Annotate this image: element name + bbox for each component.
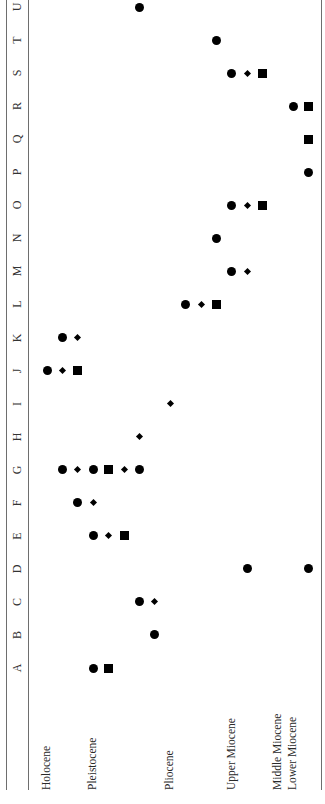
circle-marker-icon: [243, 564, 252, 573]
left-border-rule: [6, 0, 7, 790]
epoch-label-lower-miocene: Lower Miocene: [286, 717, 299, 790]
circle-marker-icon: [227, 201, 236, 210]
row-label-c: C: [10, 592, 24, 612]
row-label-o: O: [10, 195, 24, 215]
square-marker-icon: [104, 664, 113, 673]
row-label-i: I: [10, 394, 24, 414]
circle-marker-icon: [289, 102, 298, 111]
circle-marker-icon: [58, 465, 67, 474]
right-border-rule: [321, 0, 322, 790]
row-label-u: U: [10, 0, 24, 17]
circle-marker-icon: [135, 3, 144, 12]
diamond-marker-icon: [120, 466, 127, 473]
diamond-marker-icon: [151, 598, 158, 605]
diamond-marker-icon: [74, 466, 81, 473]
circle-marker-icon: [304, 564, 313, 573]
row-label-m: M: [10, 261, 24, 281]
circle-marker-icon: [227, 267, 236, 276]
square-marker-icon: [212, 300, 221, 309]
row-label-f: F: [10, 493, 24, 513]
circle-marker-icon: [150, 630, 159, 639]
epoch-label-pleistocene: Pleistocene: [86, 738, 99, 790]
header-separator-rule: [28, 0, 29, 790]
square-marker-icon: [258, 69, 267, 78]
row-label-t: T: [10, 30, 24, 50]
row-label-q: Q: [10, 129, 24, 149]
circle-marker-icon: [227, 69, 236, 78]
circle-marker-icon: [89, 531, 98, 540]
epoch-label-upper-miocene: Upper Miocene: [225, 718, 238, 790]
circle-marker-icon: [135, 465, 144, 474]
square-marker-icon: [304, 135, 313, 144]
row-label-d: D: [10, 559, 24, 579]
circle-marker-icon: [43, 366, 52, 375]
row-label-l: L: [10, 294, 24, 314]
circle-marker-icon: [181, 300, 190, 309]
diamond-marker-icon: [244, 70, 251, 77]
row-label-n: N: [10, 228, 24, 248]
row-label-r: R: [10, 96, 24, 116]
diamond-marker-icon: [105, 532, 112, 539]
diamond-marker-icon: [74, 334, 81, 341]
square-marker-icon: [258, 201, 267, 210]
circle-marker-icon: [304, 168, 313, 177]
diamond-marker-icon: [59, 367, 66, 374]
circle-marker-icon: [89, 664, 98, 673]
row-label-p: P: [10, 162, 24, 182]
diamond-marker-icon: [197, 301, 204, 308]
diamond-marker-icon: [244, 268, 251, 275]
diamond-marker-icon: [136, 433, 143, 440]
epoch-label-holocene: Holocene: [40, 746, 53, 790]
row-label-s: S: [10, 63, 24, 83]
diamond-marker-icon: [167, 400, 174, 407]
row-label-k: K: [10, 328, 24, 348]
square-marker-icon: [104, 465, 113, 474]
diamond-marker-icon: [244, 202, 251, 209]
epoch-label-middle-miocene: Middle Miocene: [271, 714, 284, 790]
row-label-e: E: [10, 526, 24, 546]
row-label-h: H: [10, 427, 24, 447]
row-label-g: G: [10, 460, 24, 480]
square-marker-icon: [73, 366, 82, 375]
row-label-j: J: [10, 361, 24, 381]
diamond-marker-icon: [90, 499, 97, 506]
circle-marker-icon: [212, 234, 221, 243]
epoch-label-pliocene: Pliocene: [163, 750, 176, 790]
circle-marker-icon: [212, 36, 221, 45]
row-label-a: A: [10, 658, 24, 678]
circle-marker-icon: [73, 498, 82, 507]
square-marker-icon: [304, 102, 313, 111]
circle-marker-icon: [58, 333, 67, 342]
circle-marker-icon: [89, 465, 98, 474]
row-label-b: B: [10, 625, 24, 645]
square-marker-icon: [120, 531, 129, 540]
rotated-marker-table: ABCDEFGHIJKLMNOPQRSTU HolocenePleistocen…: [0, 0, 325, 804]
circle-marker-icon: [135, 597, 144, 606]
